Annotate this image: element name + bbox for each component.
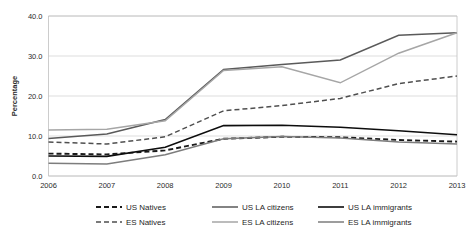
x-tick-label: 2011 — [332, 181, 348, 190]
x-tick-label: 2012 — [390, 181, 407, 190]
legend-label-es-la-immigrants: ES LA immigrants — [348, 218, 412, 227]
x-tick-label: 2007 — [99, 181, 116, 190]
legend-label-us-natives: US Natives — [126, 203, 166, 212]
y-tick-label: 30.0 — [28, 52, 43, 61]
y-tick-label: 20.0 — [28, 92, 43, 101]
x-tick-label: 2006 — [40, 181, 57, 190]
x-tick-label: 2013 — [449, 181, 466, 190]
x-tick-label: 2009 — [215, 181, 232, 190]
x-tick-label: 2010 — [274, 181, 291, 190]
y-tick-label: 10.0 — [28, 132, 43, 141]
legend-label-es-la-citizens: ES LA citizens — [242, 218, 293, 227]
x-tick-label: 2008 — [157, 181, 174, 190]
y-tick-label: 40.0 — [28, 12, 43, 21]
y-axis-title: Percentage — [10, 76, 19, 116]
legend-label-us-la-immigrants: US LA immigrants — [348, 203, 412, 212]
legend-label-us-la-citizens: US LA citizens — [242, 203, 294, 212]
legend-label-es-natives: ES Natives — [126, 218, 166, 227]
y-tick-label: 0.0 — [32, 172, 42, 181]
line-chart: 0.010.020.030.040.0 20062007200820092010… — [0, 0, 467, 238]
